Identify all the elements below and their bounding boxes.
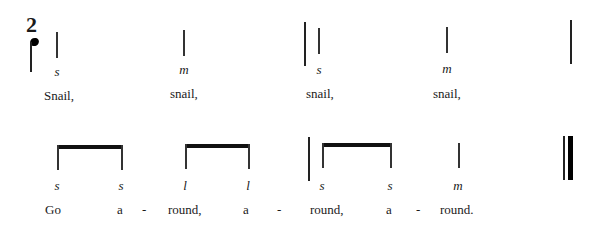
solfege-syllable: s [319, 178, 324, 194]
lyric-hyphen: - [277, 202, 281, 218]
time-signature-top: 2 [26, 14, 37, 36]
music-score: 2 s m s m Snail, snail, snail, snail, s … [0, 0, 596, 225]
barline [308, 137, 310, 181]
note-stick [185, 144, 187, 169]
barline [304, 22, 306, 66]
lyric: Go [45, 202, 61, 218]
lyric: round, [310, 202, 344, 218]
solfege-syllable: s [316, 62, 321, 78]
note-stick [121, 145, 123, 170]
solfege-syllable: s [54, 178, 59, 194]
eighth-beam [185, 144, 249, 148]
solfege-syllable: s [54, 64, 59, 80]
eighth-beam [57, 145, 122, 149]
solfege-syllable: l [183, 178, 187, 194]
lyric: Snail, [44, 88, 74, 104]
note-stick [248, 144, 250, 169]
solfege-syllable: s [387, 178, 392, 194]
lyric: a [386, 202, 392, 218]
final-barline-thick [568, 136, 573, 180]
solfege-syllable: m [453, 178, 462, 194]
final-barline-thin [563, 136, 565, 180]
lyric: snail, [306, 86, 334, 102]
solfege-syllable: m [179, 62, 188, 78]
solfege-syllable: m [442, 61, 451, 77]
note-stick [57, 145, 59, 170]
solfege-syllable: l [246, 178, 250, 194]
note-stick [458, 143, 460, 168]
lyric-hyphen: - [142, 202, 146, 218]
lyric-hyphen: - [416, 202, 420, 218]
note-stick [56, 32, 58, 58]
lyric: snail, [170, 86, 198, 102]
lyric: round, [168, 202, 202, 218]
lyric: round. [440, 202, 474, 218]
quarter-note-stem [30, 42, 32, 72]
note-stick [390, 143, 392, 168]
note-stick [322, 143, 324, 168]
solfege-syllable: s [118, 178, 123, 194]
note-stick [183, 30, 185, 56]
eighth-beam [322, 143, 391, 147]
lyric: a [243, 202, 249, 218]
barline [570, 20, 572, 64]
note-stick [318, 28, 320, 54]
lyric: snail, [433, 86, 461, 102]
lyric: a [117, 202, 123, 218]
note-stick [446, 27, 448, 53]
